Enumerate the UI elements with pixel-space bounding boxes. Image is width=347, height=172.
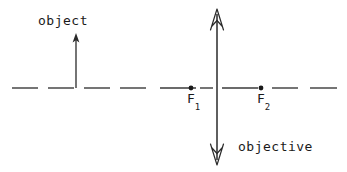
object-label: object <box>38 14 88 27</box>
focal-point-f1-dot-icon <box>189 86 194 91</box>
f2-base: F <box>257 91 265 106</box>
focal-point-f1-label: F1 <box>187 92 200 109</box>
f1-base: F <box>187 91 195 106</box>
objective-label: objective <box>238 140 313 153</box>
focal-point-f2-label: F2 <box>257 92 270 109</box>
focal-point-f2-dot-icon <box>259 86 264 91</box>
f1-subscript: 1 <box>195 102 200 112</box>
f2-subscript: 2 <box>265 102 270 112</box>
